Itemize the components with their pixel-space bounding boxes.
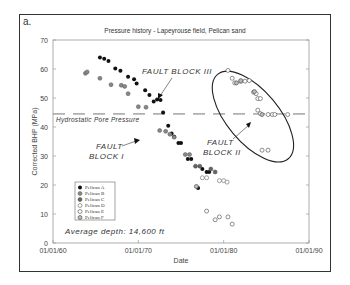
data-point	[243, 79, 247, 83]
data-point	[164, 129, 168, 133]
y-tick-label: 40	[40, 124, 48, 131]
data-point	[260, 148, 264, 152]
legend-label: Pelican C	[85, 197, 105, 202]
fault-block-ii-ellipse	[198, 58, 309, 176]
legend-marker	[78, 204, 82, 208]
data-point	[194, 184, 198, 188]
x-tick-label: 01/01/80	[210, 247, 237, 254]
data-point	[109, 83, 113, 87]
legend-label: Pelican B	[85, 191, 105, 196]
y-tick-label: 50	[40, 95, 48, 102]
data-point	[113, 66, 117, 70]
data-point	[217, 215, 221, 219]
data-point	[106, 59, 110, 63]
data-point	[123, 84, 127, 88]
annotation-fault-block-i-line1: FAULT	[96, 142, 123, 151]
data-point	[189, 157, 193, 161]
annotation-fault-block-iii: FAULT BLOCK III	[142, 67, 212, 76]
legend-label: Pelican D	[85, 203, 105, 208]
y-tick-label: 60	[40, 66, 48, 73]
legend-marker	[78, 210, 82, 214]
data-point	[230, 76, 234, 80]
data-point	[136, 105, 140, 109]
arrow-line	[160, 78, 172, 96]
data-point	[166, 124, 170, 128]
legend-label: Pelican A	[85, 185, 105, 190]
data-point	[234, 81, 238, 85]
data-point	[258, 97, 262, 101]
data-point	[194, 164, 198, 168]
legend-label: Pelican E	[85, 209, 104, 214]
data-point	[143, 88, 147, 92]
data-point	[230, 222, 234, 226]
y-tick-label: 10	[40, 211, 48, 218]
data-point	[266, 113, 270, 117]
annotation-fault-block-i-line2: BLOCK I	[89, 152, 124, 161]
data-point	[260, 113, 264, 117]
data-point	[98, 76, 102, 80]
data-point	[217, 179, 221, 183]
data-point	[273, 113, 277, 117]
data-point	[188, 153, 192, 157]
data-point	[179, 141, 183, 145]
data-point	[147, 93, 151, 97]
data-point	[161, 111, 165, 115]
data-point	[168, 132, 172, 136]
x-tick-label: 01/01/70	[125, 247, 152, 254]
data-point	[183, 153, 187, 157]
data-point	[102, 57, 106, 61]
data-point	[198, 164, 202, 168]
data-point	[247, 79, 251, 83]
legend-marker	[78, 216, 82, 220]
y-tick-label: 0	[44, 240, 48, 247]
arrow-line	[122, 141, 136, 146]
data-point	[205, 176, 209, 180]
data-point	[158, 128, 162, 132]
legend-marker	[78, 192, 82, 196]
legend-marker	[78, 198, 82, 202]
y-tick-label: 20	[40, 182, 48, 189]
data-point	[213, 170, 217, 174]
data-point	[239, 79, 243, 83]
legend-marker	[78, 186, 82, 190]
data-point	[266, 148, 270, 152]
data-point	[152, 99, 156, 103]
legend-label: Pelican F	[85, 215, 104, 220]
x-tick-label: 01/01/60	[39, 247, 66, 254]
x-tick-label: 01/01/90	[295, 247, 322, 254]
data-point	[226, 68, 230, 72]
data-point	[172, 135, 176, 139]
y-tick-label: 70	[40, 37, 48, 44]
data-point	[213, 218, 217, 222]
data-point	[135, 82, 139, 86]
arrow-head-icon	[134, 138, 140, 144]
data-point	[286, 113, 290, 117]
data-point	[200, 176, 204, 180]
data-point	[225, 180, 229, 184]
data-point	[226, 215, 230, 219]
scatter-plot: 01020304050607001/01/6001/01/7001/01/800…	[0, 0, 350, 285]
data-point	[155, 97, 159, 101]
data-point	[186, 157, 190, 161]
annotation-fault-block-ii-line2: BLOCK II	[203, 148, 241, 157]
data-point	[126, 92, 130, 96]
annotation-fault-block-ii-line1: FAULT	[207, 138, 234, 147]
data-point	[205, 209, 209, 213]
data-point	[98, 55, 102, 59]
data-point	[144, 105, 148, 109]
data-point	[209, 167, 213, 171]
data-point	[118, 69, 122, 73]
x-axis-label: Date	[174, 257, 189, 264]
hydrostatic-label: Hydrostatic Pore Pressure	[56, 116, 139, 124]
arrow-line	[233, 125, 249, 139]
data-point	[132, 77, 136, 81]
data-point	[252, 90, 256, 94]
data-point	[256, 108, 260, 112]
data-point	[159, 98, 163, 102]
annotation-average-depth: Average depth: 14,600 ft	[64, 227, 165, 236]
y-tick-label: 30	[40, 153, 48, 160]
data-point	[126, 75, 130, 79]
data-point	[85, 70, 89, 74]
y-axis-label: Corrected BHP (MPa)	[31, 108, 39, 176]
